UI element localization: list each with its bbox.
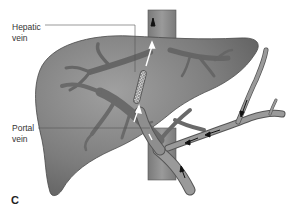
tips-liver-diagram: Hepatic vein Portal vein C xyxy=(0,0,296,213)
panel-letter: C xyxy=(11,194,19,206)
diagram-canvas xyxy=(0,0,296,213)
hepatic-vein-label: Hepatic vein xyxy=(12,22,41,43)
portal-vein-label: Portal vein xyxy=(12,123,34,144)
